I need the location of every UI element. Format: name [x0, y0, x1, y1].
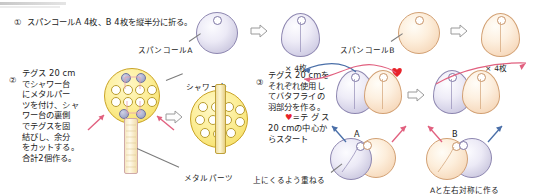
pink-arrow-left-icon	[86, 112, 108, 132]
thread-routing-topright	[430, 60, 536, 92]
stick-ridges	[125, 119, 137, 173]
instruction-sheet: ① スパンコールA 4枚、B 4枚を縦半分に折る。 スパンコールA × 4枚 ス…	[0, 0, 539, 194]
top-rule-decoration	[0, 2, 66, 5]
spangle-b-hole	[415, 16, 424, 25]
step-1-number: ①	[14, 10, 21, 29]
spangle-a-folded-hole	[297, 16, 306, 25]
wing-a-hole-b	[363, 141, 372, 150]
step-2-text: テグス 20 cm でシャワー台 にメタルパー ツを付け、シャ ワー台の裏側 で…	[22, 68, 79, 163]
block-arrow-icon	[250, 24, 268, 38]
thread-routing-top	[300, 60, 410, 96]
shower-hole	[198, 102, 208, 112]
metal-parts-label: メタルパーツ	[184, 166, 233, 185]
metal-parts-stick	[124, 118, 138, 174]
blue-arrow-icon	[484, 122, 506, 144]
top-rule-decoration-2	[0, 6, 60, 8]
fold-crease-line	[500, 22, 501, 52]
step-2-number: ②	[9, 68, 16, 87]
heart-icon: ♥	[285, 112, 293, 122]
spangle-b-folded-hole	[497, 16, 506, 25]
metal-parts-leader-line	[137, 148, 179, 168]
spangle-b-label: スパンコールB	[340, 38, 395, 57]
step-1-text: スパンコールA 4枚、B 4枚を縦半分に折る。	[27, 10, 193, 29]
wing-b-hole-a	[459, 141, 468, 150]
thread-path	[105, 69, 159, 123]
step-3-number: ③	[256, 70, 263, 89]
blue-arrow-icon	[328, 122, 350, 144]
mirror-note-label: Aと左右対称に作る	[430, 178, 499, 194]
shower-hole	[226, 128, 236, 138]
shower-hole	[195, 115, 205, 125]
shower-hole	[200, 128, 210, 138]
shower-hole	[235, 105, 245, 115]
metal-parts-bar	[215, 84, 226, 154]
spangle-a-round	[196, 12, 238, 54]
pink-arrow-icon	[424, 122, 446, 144]
fold-crease-line	[300, 22, 301, 52]
block-arrow-icon	[450, 24, 468, 38]
overlap-note-label: 上にくるよう重ねる	[253, 168, 325, 187]
shower-base-leader-line	[166, 73, 183, 81]
spangle-b-folded	[481, 13, 520, 57]
block-arrow-icon	[165, 110, 183, 124]
spangle-a-label: スパンコールA	[138, 38, 193, 57]
pink-arrow-icon	[388, 122, 410, 144]
spangle-a-hole	[213, 16, 222, 25]
spangle-a-folded	[281, 13, 320, 57]
spangle-b-round	[398, 12, 440, 54]
shower-hole	[235, 117, 245, 127]
block-arrow-icon	[407, 88, 425, 102]
